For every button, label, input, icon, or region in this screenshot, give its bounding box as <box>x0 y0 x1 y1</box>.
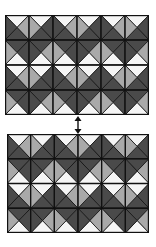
tile <box>54 134 78 159</box>
tile <box>7 134 31 159</box>
tile <box>53 15 77 40</box>
tile <box>53 90 77 115</box>
tile <box>5 15 29 40</box>
tile <box>125 15 149 40</box>
tile <box>78 134 102 159</box>
tile <box>31 208 55 233</box>
tile <box>53 65 77 90</box>
tile <box>7 159 31 184</box>
bottom-tile-panel <box>7 134 149 233</box>
tile <box>77 40 101 65</box>
tile <box>102 184 126 209</box>
tile <box>125 159 149 184</box>
double-arrow-icon <box>72 116 84 134</box>
tile <box>29 65 53 90</box>
tile <box>102 208 126 233</box>
tile <box>77 90 101 115</box>
tile <box>54 208 78 233</box>
tile <box>125 134 149 159</box>
tile <box>78 184 102 209</box>
tile <box>102 159 126 184</box>
tile <box>125 90 149 115</box>
tile <box>78 208 102 233</box>
tile <box>125 208 149 233</box>
tile <box>101 15 125 40</box>
tile <box>53 40 77 65</box>
tile <box>125 184 149 209</box>
tile <box>77 65 101 90</box>
tile <box>7 184 31 209</box>
tile <box>5 65 29 90</box>
tile <box>77 15 101 40</box>
tile <box>5 40 29 65</box>
tile <box>29 15 53 40</box>
tile <box>101 65 125 90</box>
tile <box>29 90 53 115</box>
top-tile-panel <box>5 15 149 115</box>
tile <box>7 208 31 233</box>
tile <box>31 184 55 209</box>
tile <box>5 90 29 115</box>
tile <box>78 159 102 184</box>
tile <box>54 184 78 209</box>
tile <box>101 90 125 115</box>
tile <box>31 159 55 184</box>
tile <box>31 134 55 159</box>
tile <box>102 134 126 159</box>
tile <box>29 40 53 65</box>
tile <box>101 40 125 65</box>
tile <box>54 159 78 184</box>
tile <box>125 40 149 65</box>
tile <box>125 65 149 90</box>
